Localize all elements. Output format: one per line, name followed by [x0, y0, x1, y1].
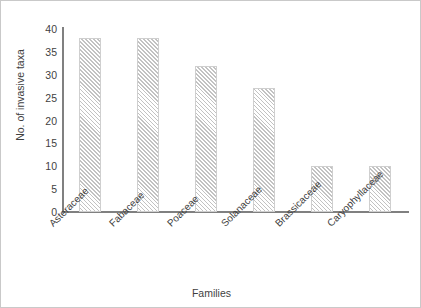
plot-area	[63, 29, 403, 212]
y-tick-label: 15	[31, 138, 57, 149]
y-tick-label: 30	[31, 70, 57, 81]
y-tick-label: 5	[31, 184, 57, 195]
y-tick-label: 40	[31, 24, 57, 35]
bar-poaceae[interactable]	[195, 66, 217, 212]
bar-chart-figure: No. of invasive taxa 40 35 30 25 20 15 1…	[0, 0, 421, 308]
y-tick-label: 20	[31, 116, 57, 127]
y-tick-label: 25	[31, 93, 57, 104]
bar-fabaceae[interactable]	[137, 38, 159, 212]
y-axis-title: No. of invasive taxa	[14, 30, 26, 160]
y-tick-label: 35	[31, 47, 57, 58]
y-tick-label: 10	[31, 161, 57, 172]
x-axis-title: Families	[1, 287, 421, 299]
y-axis-tick-labels: 40 35 30 25 20 15 10 5 0	[27, 1, 57, 308]
